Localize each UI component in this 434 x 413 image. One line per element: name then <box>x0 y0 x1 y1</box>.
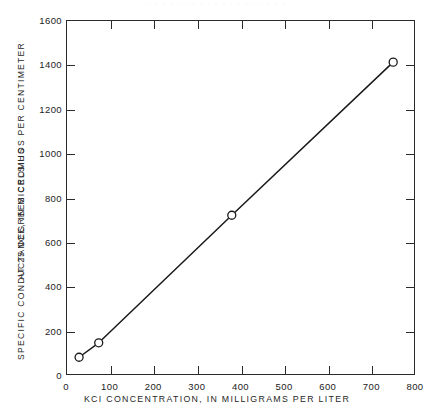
x-axis-tick-label: 100 <box>101 381 118 392</box>
x-axis-tick-top <box>154 21 155 29</box>
x-axis-tick-label: 400 <box>232 381 249 392</box>
y-axis-tick-label: 400 <box>45 281 62 292</box>
y-axis-tick-right <box>406 243 414 244</box>
y-axis-tick-label: 1400 <box>39 59 62 70</box>
x-axis-tick-label: 0 <box>63 381 69 392</box>
x-axis-tick <box>242 366 243 374</box>
x-axis-tick-top <box>329 21 330 29</box>
x-axis-tick-labels: 0100200300400500600700800 <box>66 381 415 395</box>
y-axis-tick-right <box>406 154 414 155</box>
x-axis-tick <box>285 366 286 374</box>
y-axis-tick <box>67 65 75 66</box>
y-axis-tick-label: 1200 <box>39 103 62 114</box>
figure-root: · · · · · · · · · · · · · · · · · · · SP… <box>0 0 434 413</box>
x-axis-tick-top <box>111 21 112 29</box>
y-axis-tick-label: 800 <box>45 192 62 203</box>
y-axis-tick <box>67 287 75 288</box>
y-axis-tick-right <box>406 199 414 200</box>
y-axis-tick-right <box>406 332 414 333</box>
plot-area <box>66 20 415 375</box>
y-axis-tick-label: 600 <box>45 236 62 247</box>
y-axis-tick <box>67 110 75 111</box>
y-axis-tick-label: 1600 <box>39 15 62 26</box>
y-axis-tick <box>67 243 75 244</box>
x-axis-tick-label: 500 <box>276 381 293 392</box>
y-axis-tick-label: 1000 <box>39 148 62 159</box>
scanned-header-fragment: · · · · · · · · · · · · · · · · · · · <box>0 0 434 9</box>
x-axis-tick-label: 700 <box>363 381 380 392</box>
y-axis-tick-right <box>406 65 414 66</box>
y-axis-tick-labels: 02004006008001000120014001600 <box>22 20 62 375</box>
x-axis-tick-label: 600 <box>319 381 336 392</box>
y-axis-tick-right <box>406 110 414 111</box>
y-axis-tick-label: 0 <box>56 370 62 381</box>
y-axis-tick-right <box>406 287 414 288</box>
y-axis-tick-label: 200 <box>45 325 62 336</box>
y-axis-tick <box>67 199 75 200</box>
x-axis-tick <box>198 366 199 374</box>
y-axis-tick <box>67 332 75 333</box>
x-axis-tick-label: 800 <box>406 381 423 392</box>
x-axis-tick-label: 200 <box>145 381 162 392</box>
x-axis-tick <box>329 366 330 374</box>
x-axis-tick-top <box>198 21 199 29</box>
x-axis-tick-label: 300 <box>188 381 205 392</box>
x-axis-tick <box>372 366 373 374</box>
plot-inner <box>67 21 414 374</box>
x-axis-tick <box>111 366 112 374</box>
x-axis-tick-top <box>242 21 243 29</box>
x-axis-title: KCI CONCENTRATION, IN MILLIGRAMS PER LIT… <box>0 394 434 404</box>
x-axis-tick-top <box>372 21 373 29</box>
y-axis-tick <box>67 154 75 155</box>
x-axis-tick <box>154 366 155 374</box>
x-axis-tick-top <box>285 21 286 29</box>
